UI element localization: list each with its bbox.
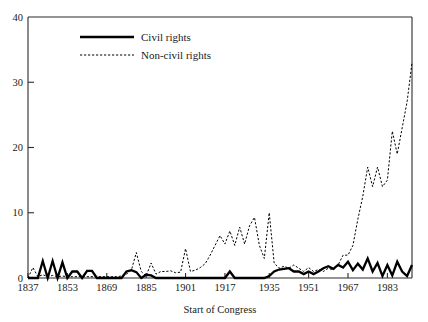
series-line-non-civil-rights [28,63,412,278]
series-line-civil-rights [28,258,412,278]
x-tick-label: 1967 [338,282,359,293]
x-tick-label: 1983 [377,282,398,293]
y-axis-ticks: 010203040 [13,12,35,284]
x-tick-label: 1837 [18,282,39,293]
x-tick-label: 1853 [57,282,78,293]
y-tick-label: 40 [13,12,24,23]
x-axis-ticks: 1837185318691885190119171935195119671983 [18,273,398,293]
x-tick-label: 1885 [136,282,157,293]
legend-label-civil-rights: Civil rights [141,31,191,43]
y-tick-label: 10 [13,207,24,218]
x-tick-label: 1951 [298,282,319,293]
y-tick-label: 20 [13,142,24,153]
x-axis-title: Start of Congress [184,304,257,315]
legend-label-non-civil-rights: Non-civil rights [141,49,211,61]
x-tick-label: 1869 [96,282,117,293]
x-tick-label: 1935 [259,282,280,293]
chart-figure: 010203040 183718531869188519011917193519… [0,0,428,322]
chart-legend: Civil rights Non-civil rights [80,31,211,61]
y-tick-label: 30 [13,77,24,88]
line-chart: 010203040 183718531869188519011917193519… [0,0,428,322]
x-tick-label: 1917 [214,282,235,293]
x-tick-label: 1901 [175,282,196,293]
